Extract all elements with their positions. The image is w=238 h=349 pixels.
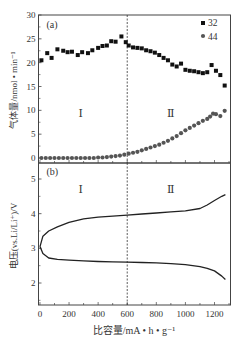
data-point-32 — [201, 71, 205, 75]
y-tick-label-a: 25 — [27, 34, 37, 44]
data-point-32 — [188, 69, 192, 73]
data-point-44 — [83, 156, 87, 160]
data-point-32 — [90, 48, 94, 52]
data-point-44 — [48, 156, 52, 160]
data-point-32 — [61, 49, 65, 53]
data-point-44 — [214, 112, 218, 116]
data-point-44 — [166, 139, 170, 143]
x-tick-label: 600 — [120, 309, 134, 319]
y-axis-label-b: 电压(vs.Li/Li⁺)/V — [8, 202, 19, 269]
data-point-44 — [52, 156, 56, 160]
data-point-32 — [183, 68, 187, 72]
data-point-44 — [131, 151, 135, 155]
voltage-curve-discharge — [40, 247, 225, 280]
y-axis-label-a: 气体量/nmol • min⁻¹ — [8, 51, 19, 128]
region-1-label-b: Ⅰ — [79, 183, 83, 195]
data-point-44 — [175, 134, 179, 138]
data-point-32 — [166, 58, 170, 62]
data-point-44 — [201, 119, 205, 123]
data-point-44 — [148, 145, 152, 149]
data-point-44 — [105, 155, 109, 159]
x-axis-label: 比容量/mA • h • g⁻¹ — [93, 324, 176, 336]
data-point-32 — [223, 84, 227, 88]
data-point-44 — [192, 123, 196, 127]
data-point-32 — [114, 40, 118, 44]
data-point-44 — [127, 152, 131, 156]
data-point-44 — [218, 114, 222, 118]
data-point-44 — [70, 156, 74, 160]
data-point-44 — [170, 136, 174, 140]
data-point-32 — [197, 70, 201, 74]
data-point-44 — [57, 156, 61, 160]
legend-marker-44 — [201, 34, 205, 38]
data-point-44 — [183, 128, 187, 132]
gas-voltage-chart: 051015202530(a)ⅠⅡ3244气体量/nmol • min⁻¹ 23… — [0, 0, 238, 349]
x-tick-label: 800 — [150, 309, 164, 319]
data-point-32 — [80, 50, 84, 54]
x-tick-label: 400 — [91, 309, 105, 319]
data-point-32 — [210, 63, 214, 67]
legend-label-32: 32 — [208, 18, 218, 28]
data-point-32 — [170, 63, 174, 67]
data-point-44 — [118, 154, 122, 158]
data-point-32 — [119, 34, 123, 38]
x-tick-label: 1000 — [176, 309, 195, 319]
data-point-44 — [100, 155, 104, 159]
data-point-44 — [196, 121, 200, 125]
data-point-44 — [161, 141, 165, 145]
data-point-32 — [105, 44, 109, 48]
data-point-44 — [65, 156, 69, 160]
data-point-32 — [109, 39, 113, 43]
y-tick-label-b: 4 — [31, 209, 36, 219]
data-point-32 — [218, 73, 222, 77]
data-point-32 — [127, 44, 131, 48]
region-2-label-a: Ⅱ — [167, 107, 174, 119]
data-point-32 — [144, 48, 148, 52]
data-point-32 — [179, 62, 183, 66]
panel-b-voltage-profile: 2345020040060080010001200(b)ⅠⅡ电压(vs.Li/L… — [8, 163, 231, 319]
y-tick-label-a: 5 — [31, 129, 36, 139]
data-point-32 — [214, 69, 218, 73]
legend-marker-32 — [201, 21, 205, 25]
data-point-32 — [153, 51, 157, 55]
y-tick-label-a: 10 — [27, 105, 37, 115]
data-point-44 — [74, 156, 78, 160]
data-point-32 — [66, 50, 70, 54]
legend: 3244 — [201, 18, 218, 42]
data-point-44 — [96, 155, 100, 159]
data-point-32 — [149, 49, 153, 53]
data-point-44 — [92, 156, 96, 160]
data-point-32 — [101, 44, 105, 48]
region-1-label-a: Ⅰ — [79, 107, 83, 119]
data-point-32 — [131, 45, 135, 49]
data-point-32 — [55, 47, 59, 51]
data-point-44 — [179, 131, 183, 135]
y-tick-label-a: 20 — [27, 58, 37, 68]
shared-axis-labels: 比容量/mA • h • g⁻¹ — [93, 324, 176, 336]
data-point-44 — [140, 148, 144, 152]
data-point-44 — [153, 144, 157, 148]
data-point-32 — [50, 56, 54, 60]
legend-label-44: 44 — [208, 32, 218, 42]
x-tick-label: 0 — [38, 309, 43, 319]
data-point-32 — [175, 64, 179, 68]
data-point-44 — [113, 154, 117, 158]
data-point-32 — [162, 56, 166, 60]
y-tick-label-a: 0 — [31, 153, 36, 163]
data-point-44 — [157, 143, 161, 147]
voltage-curve-charge — [40, 195, 225, 247]
data-point-32 — [192, 69, 196, 73]
y-tick-label-a: 15 — [27, 82, 37, 92]
data-point-44 — [223, 109, 227, 113]
data-point-32 — [45, 51, 49, 55]
data-point-32 — [39, 58, 43, 62]
data-point-32 — [157, 53, 161, 57]
data-point-44 — [39, 156, 43, 160]
y-tick-label-b: 2 — [31, 278, 36, 288]
data-point-44 — [135, 150, 139, 154]
data-point-32 — [205, 70, 209, 74]
y-tick-label-b: 5 — [31, 174, 36, 184]
data-point-44 — [44, 156, 48, 160]
y-tick-label-a: 30 — [27, 10, 37, 20]
data-point-32 — [76, 53, 80, 57]
